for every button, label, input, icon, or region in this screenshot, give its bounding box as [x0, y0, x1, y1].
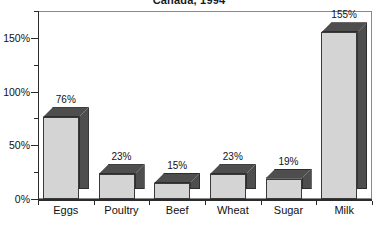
- y-axis-tick-label: 100%: [0, 86, 30, 98]
- bar-value-label: 19%: [258, 157, 320, 167]
- bar-front-face: [321, 32, 357, 199]
- y-axis-tick-label: 150%: [0, 32, 30, 44]
- bar-value-label: 76%: [35, 95, 97, 105]
- y-axis-major-tick: [31, 38, 39, 39]
- bar-value-label: 23%: [91, 152, 153, 162]
- y-axis-minor-tick: [34, 65, 39, 66]
- bar-value-label: 15%: [146, 161, 208, 171]
- bar-value-label: 155%: [313, 10, 375, 20]
- x-axis-category-label: Milk: [316, 204, 372, 216]
- bar-front-face: [210, 174, 246, 199]
- x-axis-category-label: Beef: [149, 204, 205, 216]
- y-axis-tick-label: 50%: [0, 139, 30, 151]
- chart-container: Canada, 1994 0%50%100%150% EggsPoultryBe…: [0, 0, 378, 229]
- bar-side-face: [357, 22, 367, 189]
- y-axis-minor-tick: [34, 11, 39, 12]
- x-axis-category-label: Sugar: [261, 204, 317, 216]
- y-axis-minor-tick: [34, 172, 39, 173]
- chart-title: Canada, 1994: [0, 0, 378, 6]
- x-axis-category-label: Wheat: [205, 204, 261, 216]
- x-axis-tick: [372, 201, 373, 205]
- bar-value-label: 23%: [202, 152, 264, 162]
- bar-front-face: [43, 117, 79, 199]
- y-axis-tick-label: 0%: [0, 193, 30, 205]
- bar-side-face: [79, 107, 89, 189]
- x-axis-category-label: Eggs: [38, 204, 94, 216]
- y-axis-minor-tick: [34, 118, 39, 119]
- bar-front-face: [154, 183, 190, 199]
- y-axis-major-tick: [31, 145, 39, 146]
- x-axis-category-label: Poultry: [94, 204, 150, 216]
- y-axis-major-tick: [31, 92, 39, 93]
- bar-front-face: [266, 179, 302, 199]
- bar-front-face: [99, 174, 135, 199]
